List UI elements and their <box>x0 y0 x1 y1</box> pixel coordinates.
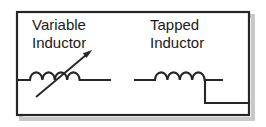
inductor-symbols-figure: Variable Inductor Tapped Inductor <box>0 0 266 127</box>
variable-inductor-label-line2: Inductor <box>32 34 86 51</box>
tapped-inductor-label-line1: Tapped <box>150 16 199 33</box>
tapped-inductor-label-line2: Inductor <box>150 34 204 51</box>
variable-inductor-label-line1: Variable <box>32 16 86 33</box>
schematic-canvas: Variable Inductor Tapped Inductor <box>0 0 266 127</box>
